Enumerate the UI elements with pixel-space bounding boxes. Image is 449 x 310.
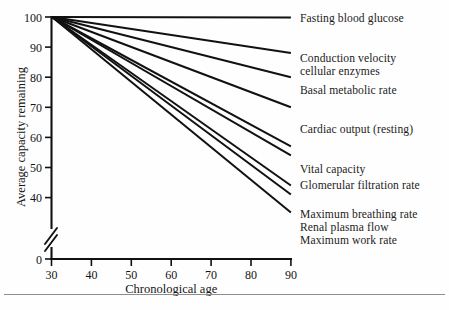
y-tick-label-50: 50 (30, 161, 42, 175)
y-tick-label-100: 100 (24, 11, 42, 25)
x-tick-label-90: 90 (285, 268, 297, 282)
series-label-glomerular-filtration-rate: Glomerular filtration rate (300, 180, 420, 193)
series-label-maximum-breathing-rate: Maximum breathing rate (300, 209, 417, 222)
series-line-maximum-breathing-rate (52, 17, 291, 186)
x-tick-label-30: 30 (46, 268, 58, 282)
series-line-renal-plasma-flow (52, 17, 291, 195)
series-line-fasting-blood-glucose (52, 17, 291, 18)
series-label-conduction-velocity: Conduction velocity (300, 53, 396, 66)
y-tick-label-60: 60 (30, 131, 42, 145)
x-tick-label-50: 50 (125, 268, 137, 282)
figure-container: 100 90 80 70 60 50 40 0 30 40 50 60 70 8… (0, 0, 449, 310)
series-line-cardiac-output (52, 17, 291, 107)
y-tick-label-40: 40 (30, 191, 42, 205)
series-label-basal-metabolic-rate: Basal metabolic rate (300, 85, 397, 98)
series-label-vital-capacity: Vital capacity (300, 164, 365, 177)
x-tick-label-70: 70 (205, 268, 217, 282)
series-label-fasting-blood-glucose: Fasting blood glucose (300, 13, 404, 26)
series-label-cellular-enzymes: cellular enzymes (300, 66, 380, 79)
y-tick-label-0: 0 (36, 253, 42, 267)
x-tick-label-40: 40 (85, 268, 97, 282)
y-axis-title: Average capacity remaining (14, 66, 28, 207)
series-label-renal-plasma-flow: Renal plasma flow (300, 222, 389, 235)
series-line-vital-capacity (52, 17, 291, 146)
series-label-cardiac-output: Cardiac output (resting) (300, 124, 413, 137)
x-tick-label-80: 80 (245, 268, 257, 282)
x-tick-label-60: 60 (165, 268, 177, 282)
y-tick-label-80: 80 (30, 71, 42, 85)
page-bottom-rule (4, 294, 445, 295)
chart-plot-area: 100 90 80 70 60 50 40 0 30 40 50 60 70 8… (0, 0, 449, 310)
y-tick-label-70: 70 (30, 101, 42, 115)
y-tick-label-90: 90 (30, 41, 42, 55)
series-line-glomerular-filtration-rate (52, 17, 291, 155)
series-label-maximum-work-rate: Maximum work rate (300, 235, 397, 248)
